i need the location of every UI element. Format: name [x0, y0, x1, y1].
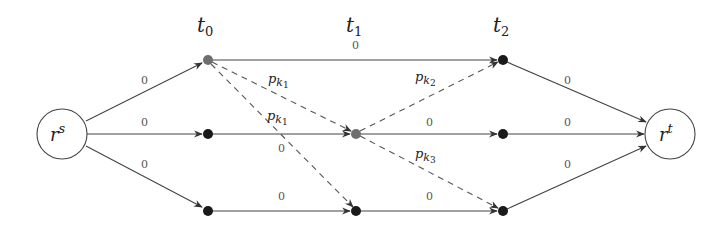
label-a0-a2: 0	[352, 39, 359, 52]
label-b1-c2-pk3: pk3	[415, 146, 436, 165]
edge-a2-rt	[507, 62, 646, 122]
edge-c2-rt	[507, 146, 646, 209]
label-a2-rt: 0	[564, 74, 571, 87]
label-rs-b0: 0	[141, 116, 148, 129]
svg-text:t0: t0	[197, 13, 213, 39]
label-b1-b2: 0	[426, 116, 433, 129]
edge-rs-c0	[86, 146, 202, 207]
node-t0-mid	[203, 129, 213, 139]
svg-text:t2: t2	[493, 13, 509, 39]
node-t0-top	[203, 55, 213, 65]
label-c0-c1: 0	[278, 190, 285, 203]
flow-network-diagram: t0 t1 t2 0 0 0 0 0 0 0 0 0 0 0 pk1 pk1 p…	[0, 0, 709, 228]
label-c2-rt: 0	[564, 158, 571, 171]
column-header-t2: t2	[493, 13, 509, 39]
source-node-rs: rs	[37, 109, 87, 159]
column-header-t1: t1	[346, 13, 362, 39]
label-a0-c1-pk1: pk1	[267, 108, 288, 127]
node-t0-bottom	[203, 206, 213, 216]
label-a0-c1: 0	[278, 142, 285, 155]
label-rs-c0: 0	[141, 158, 148, 171]
node-t2-top	[498, 55, 508, 65]
label-b1-a2-pk2: pk2	[415, 69, 436, 88]
edge-rs-a0	[86, 63, 202, 121]
node-t2-mid	[498, 129, 508, 139]
node-t2-bottom	[498, 206, 508, 216]
column-header-t0: t0	[197, 13, 213, 39]
sink-node-rt: rt	[645, 109, 695, 159]
node-t1-bottom	[351, 206, 361, 216]
label-b2-rt: 0	[564, 116, 571, 129]
label-rs-a0: 0	[141, 74, 148, 87]
node-t1-mid	[351, 129, 361, 139]
svg-text:t1: t1	[346, 13, 362, 39]
label-c1-c2: 0	[426, 190, 433, 203]
label-a0-b1-pk1: pk1	[268, 71, 289, 90]
